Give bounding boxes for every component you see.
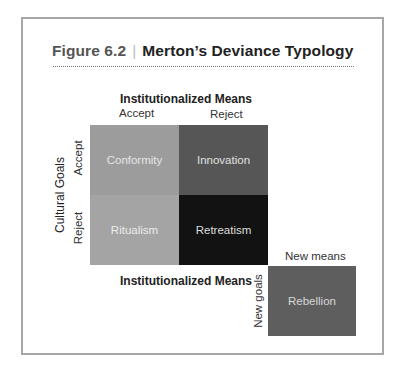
cell-label: Ritualism	[111, 224, 158, 236]
left-option-accept: Accept	[72, 140, 84, 175]
cell-label: Retreatism	[196, 224, 252, 236]
figure-title: Figure 6.2|Merton’s Deviance Typology	[52, 42, 353, 60]
cell-innovation: Innovation	[179, 125, 268, 195]
cell-ritualism: Ritualism	[90, 195, 179, 265]
rebellion-top-label: New means	[285, 250, 346, 262]
rebellion-side-label: New goals	[252, 274, 264, 328]
figure-number: Figure 6.2	[52, 42, 126, 59]
title-separator: |	[132, 42, 136, 59]
cell-label: Conformity	[107, 154, 163, 166]
cell-rebellion: Rebellion	[268, 266, 356, 336]
left-axis-label: Cultural Goals	[53, 157, 67, 233]
left-option-reject: Reject	[72, 212, 84, 245]
cell-retreatism: Retreatism	[179, 195, 268, 265]
cell-conformity: Conformity	[90, 125, 179, 195]
cell-label: Rebellion	[288, 295, 336, 307]
bottom-axis-label: Institutionalized Means	[120, 274, 252, 288]
top-axis-label: Institutionalized Means	[120, 92, 252, 106]
top-option-reject: Reject	[210, 108, 243, 120]
cell-label: Innovation	[197, 154, 250, 166]
title-divider	[53, 66, 354, 67]
figure-title-text: Merton’s Deviance Typology	[142, 42, 353, 59]
top-option-accept: Accept	[119, 107, 154, 119]
